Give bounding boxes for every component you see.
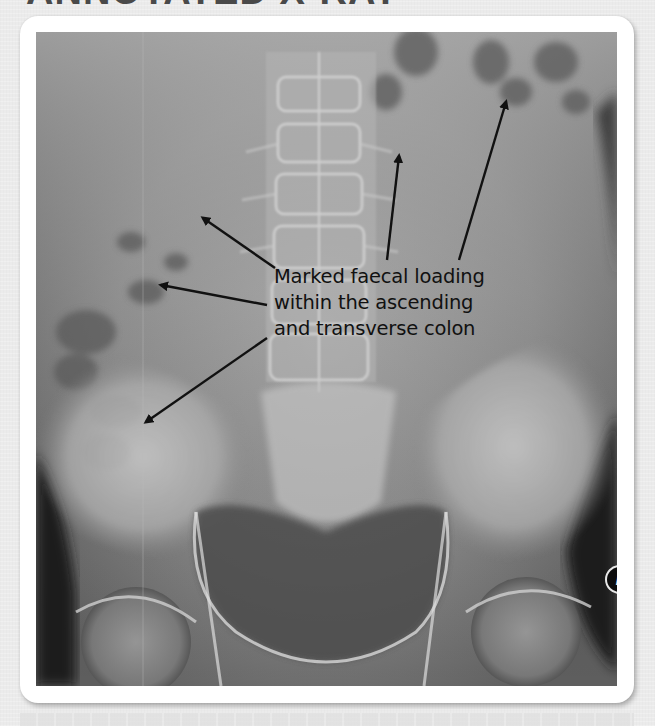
- annotation-line-1: Marked faecal loading: [274, 264, 485, 290]
- xray-illustration: [36, 32, 617, 686]
- page-footer-texture: [20, 713, 634, 726]
- annotation-label: Marked faecal loading within the ascendi…: [274, 264, 485, 342]
- page-title: ANNOTATED X-RAY: [26, 0, 399, 13]
- xray-card: Marked faecal loading within the ascendi…: [20, 16, 634, 703]
- annotation-line-3: and transverse colon: [274, 316, 485, 342]
- xray-image: Marked faecal loading within the ascendi…: [36, 32, 617, 686]
- annotation-line-2: within the ascending: [274, 290, 485, 316]
